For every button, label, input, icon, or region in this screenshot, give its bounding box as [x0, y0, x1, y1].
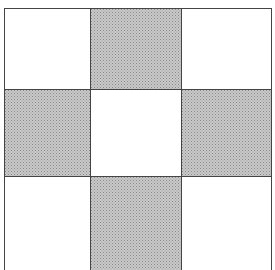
grid-line-v1 — [90, 8, 91, 270]
grid-line-v2 — [181, 8, 182, 270]
grid-cell-r2-c2 — [181, 176, 271, 270]
grid-line-right — [271, 8, 272, 270]
grid-line-top — [4, 8, 272, 9]
grid-cell-r1-c0 — [4, 89, 90, 176]
grid-cell-r0-c2 — [181, 8, 271, 89]
grid-cell-r0-c1 — [90, 8, 181, 89]
grid-cell-r1-c2 — [181, 89, 271, 176]
grid-cell-r0-c0 — [4, 8, 90, 89]
grid-cell-r1-c1 — [90, 89, 181, 176]
grid-line-h2 — [4, 176, 272, 177]
grid-cell-r2-c0 — [4, 176, 90, 270]
grid-cell-r2-c1 — [90, 176, 181, 270]
checker-grid — [4, 8, 272, 270]
grid-line-left — [4, 8, 5, 270]
grid-line-h1 — [4, 89, 272, 90]
